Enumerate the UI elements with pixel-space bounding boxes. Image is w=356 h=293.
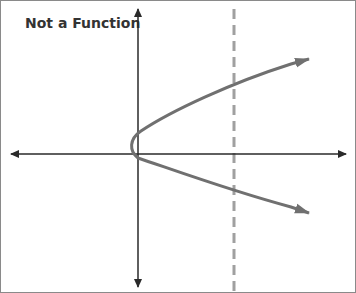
diagram-frame: Not a Function bbox=[0, 0, 356, 293]
parabola-lower-branch bbox=[138, 158, 309, 213]
parabola-upper-branch bbox=[132, 59, 309, 158]
graph-canvas bbox=[1, 1, 356, 293]
